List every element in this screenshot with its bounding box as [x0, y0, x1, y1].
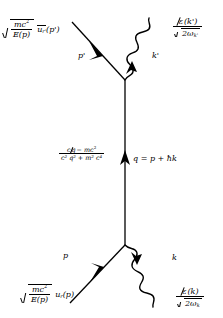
outgoing-sqrt-denominator: E(p) [11, 30, 32, 39]
outgoing-fermion-momentum-label: p' [78, 52, 85, 60]
incoming-fermion-line [70, 245, 125, 303]
incoming-photon-momentum-label: k [172, 254, 177, 262]
incoming-spinor: ur(p) [55, 291, 74, 299]
incoming-photon-factor-label: ε(k) 2ωk [176, 288, 204, 308]
internal-propagator-line [120, 80, 130, 246]
outgoing-photon-factor-label: ε(k') 2ωk' [173, 18, 202, 38]
outgoing-polarization-argument: (k') [184, 17, 197, 26]
outgoing-fermion-arrowhead [89, 41, 103, 60]
feynman-diagram-canvas: mc2 E(p) ur'(p') ε(k') 2ωk' cq− mc2 c [0, 0, 223, 318]
incoming-photon-omega-subscript: k [197, 302, 200, 308]
spinor-overbar [37, 25, 46, 26]
sqrt-radical-incoming: mc2 E(p) [22, 284, 52, 304]
incoming-sqrt-numerator-exp: 2 [44, 283, 47, 289]
sqrt-radical-outgoing: mc2 E(p) [4, 19, 34, 39]
outgoing-photon-omega: 2ω [182, 29, 194, 38]
incoming-sqrt-denominator: E(p) [29, 295, 50, 304]
outgoing-photon-omega-subscript: k' [194, 32, 198, 38]
incoming-photon-wavy-line [125, 245, 154, 307]
propagator-factor-label: cq− mc2 c² q² + m² c⁴ [59, 147, 104, 162]
incoming-photon-omega: 2ω [185, 299, 197, 308]
outgoing-sqrt-numerator: mc [14, 20, 26, 29]
outgoing-photon-wavy-line [125, 18, 150, 80]
outgoing-polarization-slash: ε [178, 18, 184, 26]
sqrt-radical-incoming-photon: 2ωk [178, 298, 202, 308]
incoming-polarization-argument: (k) [187, 287, 198, 296]
incoming-fermion-arrowhead [90, 263, 104, 282]
outgoing-spinor-argument: (p') [46, 25, 60, 34]
outgoing-fermion-factor-label: mc2 E(p) ur'(p') [4, 19, 60, 39]
incoming-spinor-argument: (p) [63, 290, 74, 299]
diagram-lines [0, 0, 223, 318]
outgoing-photon-momentum-label: k' [152, 52, 159, 60]
incoming-fermion-factor-label: mc2 E(p) ur(p) [22, 284, 74, 304]
propagator-q-slash: q [71, 147, 77, 153]
propagator-numerator-rest: − mc [77, 146, 94, 154]
sqrt-radical-outgoing-photon: 2ωk' [175, 28, 200, 38]
outgoing-spinor: ur'(p') [37, 26, 59, 34]
propagator-denominator: c² q² + m² c⁴ [59, 154, 104, 161]
outgoing-sqrt-numerator-exp: 2 [26, 18, 29, 24]
incoming-sqrt-numerator: mc [32, 285, 44, 294]
incoming-polarization-slash: ε [181, 288, 187, 296]
incoming-fermion-momentum-label: p [63, 252, 68, 260]
momentum-relation-label: q = p + ħk [133, 155, 177, 163]
propagator-numerator-exp: 2 [94, 145, 97, 150]
